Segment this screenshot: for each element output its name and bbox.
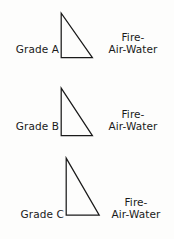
triangle-b [60,87,94,137]
elements-line-fire-c: Fire- [98,197,174,209]
elements-line-air-water-c: Air-Water [98,209,174,221]
grade-label-a: Grade A [2,43,59,55]
grade-triangle-figure: Grade A Fire- Air-Water Grade B Fire- Ai… [0,0,174,239]
elements-line-fire-a: Fire- [94,32,172,44]
grade-group-b: Grade B Fire- Air-Water [0,76,174,152]
grade-label-b: Grade B [2,120,59,132]
triangle-c [65,157,101,217]
elements-label-a: Fire- Air-Water [94,32,172,55]
elements-line-air-water-a: Air-Water [94,44,172,56]
elements-line-fire-b: Fire- [94,109,172,121]
grade-group-a: Grade A Fire- Air-Water [0,0,174,74]
grade-label-c: Grade C [2,208,64,220]
elements-line-air-water-b: Air-Water [94,121,172,133]
triangle-a [60,12,94,59]
grade-group-c: Grade C Fire- Air-Water [0,154,174,239]
elements-label-c: Fire- Air-Water [98,197,174,220]
elements-label-b: Fire- Air-Water [94,109,172,132]
